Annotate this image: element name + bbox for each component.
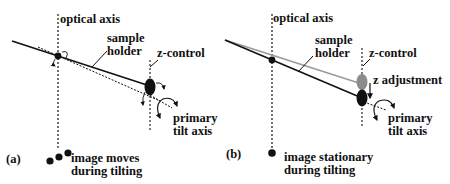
z-control-knob-adjusted xyxy=(357,90,368,107)
panel-b-tag: (b) xyxy=(226,147,241,161)
z-control-label: z-control xyxy=(157,46,205,60)
image-dot-2 xyxy=(55,153,62,160)
pivot-dot xyxy=(55,53,62,60)
panel-b: optical axis sample holder z-control z a… xyxy=(225,11,443,177)
tilt-diagram: optical axis sample holder z-control pri… xyxy=(0,0,450,184)
z-control-rotation-icon xyxy=(156,83,164,89)
panel-a: optical axis sample holder z-control pri… xyxy=(6,12,218,178)
z-control-label: z-control xyxy=(369,46,417,60)
panel-a-tag: (a) xyxy=(6,152,21,166)
z-control-leader xyxy=(363,59,370,66)
sample-holder-leader xyxy=(92,51,107,67)
image-label-2: during tilting xyxy=(284,163,356,177)
image-dot-1 xyxy=(46,157,53,164)
image-dot xyxy=(268,149,276,157)
optical-axis-label: optical axis xyxy=(60,12,120,26)
image-label-1: image moves xyxy=(71,151,140,165)
tilt-axis-label-2: tilt axis xyxy=(388,124,427,138)
sample-holder-label-2: holder xyxy=(315,46,350,60)
sample-holder-label-2: holder xyxy=(107,44,142,58)
pivot-dot xyxy=(269,57,276,64)
image-label-1: image stationary xyxy=(284,150,374,164)
sample-holder-label-1: sample xyxy=(107,31,145,45)
z-adjustment-label: z adjustment xyxy=(373,73,443,87)
tilt-axis-label-2: tilt axis xyxy=(173,124,212,138)
optical-axis-label: optical axis xyxy=(273,11,333,25)
z-control-knob xyxy=(145,79,156,96)
tilt-axis-label-1: primary xyxy=(388,111,433,125)
z-control-knob-original xyxy=(357,74,368,90)
sample-holder-label-1: sample xyxy=(315,33,353,47)
primary-tilt-axis-line xyxy=(150,95,172,108)
z-control-leader xyxy=(150,60,158,67)
tilt-axis-label-1: primary xyxy=(173,111,218,125)
image-label-2: during tilting xyxy=(71,164,143,178)
